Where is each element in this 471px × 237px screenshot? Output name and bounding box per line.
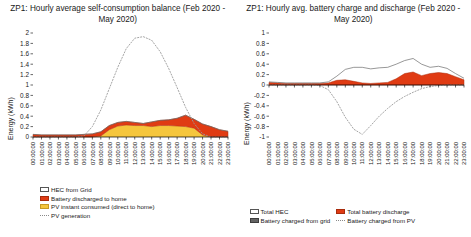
legend-item-hec-from-grid: HEC from Grid xyxy=(40,186,155,193)
svg-text:0.6: 0.6 xyxy=(20,102,29,109)
svg-text:00:00:00: 00:00:00 xyxy=(266,141,272,165)
left-plot-area: 00.20.40.60.811.21.41.61.8200:00:0001:00… xyxy=(0,25,236,185)
right-legend-col-1: Total HEC Battery charged from grid xyxy=(250,208,331,225)
legend-item-pv-generation: PV generation xyxy=(40,212,155,219)
svg-text:21:00:00: 21:00:00 xyxy=(208,141,214,165)
svg-text:10:00:00: 10:00:00 xyxy=(350,141,356,165)
svg-text:1.2: 1.2 xyxy=(20,71,29,78)
svg-text:19:00:00: 19:00:00 xyxy=(427,141,433,165)
svg-text:06:00:00: 06:00:00 xyxy=(81,141,87,165)
svg-text:05:00:00: 05:00:00 xyxy=(73,141,79,165)
svg-text:1: 1 xyxy=(261,29,265,36)
svg-text:11:00:00: 11:00:00 xyxy=(359,141,365,164)
svg-text:21:00:00: 21:00:00 xyxy=(444,141,450,165)
svg-text:03:00:00: 03:00:00 xyxy=(56,141,62,165)
left-chart-title: ZP1: Hourly average self-consumption bal… xyxy=(0,0,236,25)
svg-text:-0.6: -0.6 xyxy=(253,113,264,120)
svg-text:19:00:00: 19:00:00 xyxy=(191,141,197,165)
svg-text:03:00:00: 03:00:00 xyxy=(291,141,297,165)
svg-text:22:00:00: 22:00:00 xyxy=(217,141,223,165)
legend-item-pv-instant-consumed: PV instant consumed (direct to home) xyxy=(40,203,155,210)
svg-text:23:00:00: 23:00:00 xyxy=(225,141,231,165)
right-chart-panel: ZP1: Hourly avg. battery charge and disc… xyxy=(236,0,471,237)
svg-text:13:00:00: 13:00:00 xyxy=(376,141,382,165)
svg-text:00:00:00: 00:00:00 xyxy=(30,141,36,165)
svg-text:12:00:00: 12:00:00 xyxy=(367,141,373,165)
legend-label-total-battery-discharge: Total battery discharge xyxy=(347,208,409,215)
svg-text:0.2: 0.2 xyxy=(20,123,29,130)
svg-text:05:00:00: 05:00:00 xyxy=(308,141,314,165)
svg-text:2: 2 xyxy=(25,29,29,36)
svg-text:-0.4: -0.4 xyxy=(253,102,264,109)
svg-text:20:00:00: 20:00:00 xyxy=(200,141,206,165)
legend-swatch-hec-from-grid xyxy=(40,187,49,192)
svg-text:04:00:00: 04:00:00 xyxy=(300,141,306,165)
svg-text:02:00:00: 02:00:00 xyxy=(283,141,289,165)
svg-text:04:00:00: 04:00:00 xyxy=(64,141,70,165)
legend-label-battery-charged-from-pv: Battery charged from PV xyxy=(347,217,415,224)
svg-text:15:00:00: 15:00:00 xyxy=(157,141,163,165)
legend-item-battery-charged-from-grid: Battery charged from grid xyxy=(250,217,331,224)
svg-text:22:00:00: 22:00:00 xyxy=(452,141,458,165)
svg-text:-1: -1 xyxy=(259,133,265,140)
svg-text:1: 1 xyxy=(25,81,29,88)
svg-text:06:00:00: 06:00:00 xyxy=(317,141,323,165)
svg-text:12:00:00: 12:00:00 xyxy=(132,141,138,165)
svg-text:23:00:00: 23:00:00 xyxy=(461,141,467,165)
right-legend: Total HEC Battery charged from grid Tota… xyxy=(250,208,422,225)
right-plot-area: -1-0.8-0.6-0.4-0.200.20.40.60.8100:00:00… xyxy=(236,25,471,185)
legend-item-battery-charged-from-pv: Battery charged from PV xyxy=(336,217,415,224)
svg-text:-0.2: -0.2 xyxy=(253,92,264,99)
right-legend-col-2: Total battery discharge Battery charged … xyxy=(336,208,415,225)
svg-text:18:00:00: 18:00:00 xyxy=(183,141,189,165)
svg-text:09:00:00: 09:00:00 xyxy=(342,141,348,165)
svg-text:0.8: 0.8 xyxy=(20,92,29,99)
svg-text:08:00:00: 08:00:00 xyxy=(98,141,104,165)
legend-label-battery-charged-from-grid: Battery charged from grid xyxy=(261,217,331,224)
svg-text:1.4: 1.4 xyxy=(20,61,29,68)
svg-text:07:00:00: 07:00:00 xyxy=(325,141,331,165)
svg-text:17:00:00: 17:00:00 xyxy=(410,141,416,165)
svg-text:16:00:00: 16:00:00 xyxy=(166,141,172,165)
svg-text:16:00:00: 16:00:00 xyxy=(401,141,407,165)
legend-swatch-battery-charged-from-grid xyxy=(250,218,259,223)
legend-label-pv-instant-consumed: PV instant consumed (direct to home) xyxy=(51,203,155,210)
svg-text:11:00:00: 11:00:00 xyxy=(123,141,129,164)
svg-text:20:00:00: 20:00:00 xyxy=(435,141,441,165)
svg-text:1.8: 1.8 xyxy=(20,40,29,47)
legend-label-battery-discharged-to-home: Battery discharged to home xyxy=(51,195,127,202)
right-chart-title: ZP1: Hourly avg. battery charge and disc… xyxy=(236,0,471,25)
svg-text:14:00:00: 14:00:00 xyxy=(384,141,390,165)
right-chart-svg: -1-0.8-0.6-0.4-0.200.20.40.60.8100:00:00… xyxy=(236,25,471,185)
legend-item-total-hec: Total HEC xyxy=(250,208,331,215)
legend-swatch-total-battery-discharge xyxy=(336,209,345,214)
charts-container: ZP1: Hourly average self-consumption bal… xyxy=(0,0,471,237)
legend-swatch-pv-instant-consumed xyxy=(40,204,49,209)
left-chart-panel: ZP1: Hourly average self-consumption bal… xyxy=(0,0,236,237)
svg-text:1.6: 1.6 xyxy=(20,50,29,57)
svg-text:0.2: 0.2 xyxy=(256,71,265,78)
svg-text:17:00:00: 17:00:00 xyxy=(174,141,180,165)
svg-text:08:00:00: 08:00:00 xyxy=(334,141,340,165)
svg-text:18:00:00: 18:00:00 xyxy=(418,141,424,165)
svg-text:-0.8: -0.8 xyxy=(253,123,264,130)
svg-text:0.8: 0.8 xyxy=(256,40,265,47)
legend-swatch-battery-discharged-to-home xyxy=(40,196,49,201)
svg-text:10:00:00: 10:00:00 xyxy=(115,141,121,165)
svg-text:01:00:00: 01:00:00 xyxy=(274,141,280,165)
svg-text:0: 0 xyxy=(25,133,29,140)
svg-text:15:00:00: 15:00:00 xyxy=(393,141,399,165)
svg-text:01:00:00: 01:00:00 xyxy=(39,141,45,165)
legend-label-pv-generation: PV generation xyxy=(51,212,90,219)
svg-text:09:00:00: 09:00:00 xyxy=(107,141,113,165)
legend-swatch-total-hec xyxy=(250,209,259,214)
svg-text:0.4: 0.4 xyxy=(256,61,265,68)
svg-text:14:00:00: 14:00:00 xyxy=(149,141,155,165)
left-legend: HEC from Grid Battery discharged to home… xyxy=(40,186,155,220)
legend-swatch-battery-charged-from-pv xyxy=(336,220,345,221)
svg-text:07:00:00: 07:00:00 xyxy=(90,141,96,165)
svg-text:0.4: 0.4 xyxy=(20,113,29,120)
legend-item-battery-discharged-to-home: Battery discharged to home xyxy=(40,195,155,202)
svg-text:0: 0 xyxy=(261,81,265,88)
legend-item-total-battery-discharge: Total battery discharge xyxy=(336,208,415,215)
